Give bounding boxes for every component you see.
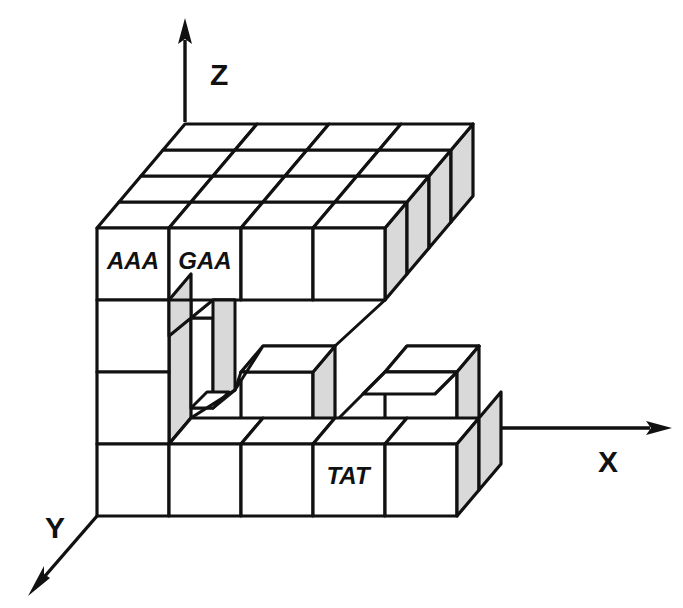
- bottom-slab-top-face: [169, 418, 479, 444]
- codon-label-tat: TAT: [326, 462, 371, 489]
- voxel-diagram: AAA GAA TAT Z X Y: [0, 0, 683, 608]
- y-axis-arrowhead: [28, 566, 50, 596]
- z-axis: [178, 18, 192, 122]
- codon-label-aaa: AAA: [106, 247, 159, 274]
- front-cell: [97, 300, 169, 372]
- front-cell-tat: [385, 444, 457, 516]
- bottom-slab-front-faces: [169, 444, 457, 516]
- axis-label-x: X: [598, 445, 618, 478]
- back-floor-edge: [335, 300, 385, 346]
- side-face: [479, 392, 501, 490]
- front-cell-tat-upper: [313, 228, 385, 300]
- front-cell: [241, 444, 313, 516]
- front-cell: [169, 444, 241, 516]
- axis-label-z: Z: [210, 58, 228, 91]
- figure-root: AAA GAA TAT Z X Y: [0, 0, 683, 608]
- front-cell: [97, 444, 169, 516]
- front-cell: [241, 228, 313, 300]
- codon-label-gaa: GAA: [178, 247, 231, 274]
- front-cell: [97, 372, 169, 444]
- axis-label-y: Y: [45, 511, 65, 544]
